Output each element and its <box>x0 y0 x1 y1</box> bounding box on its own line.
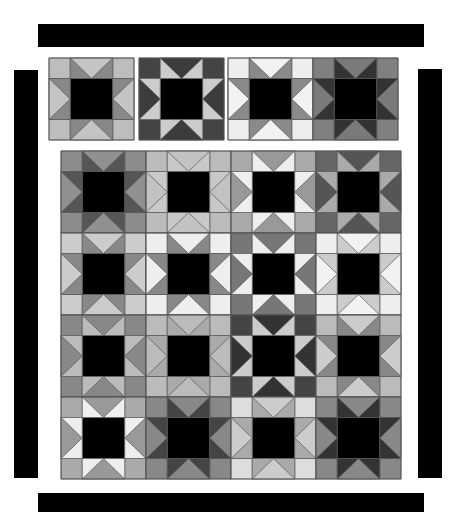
quilt-block-r1-c4 <box>316 151 401 233</box>
quilt-block-r4-c1 <box>61 397 146 479</box>
sample-block-4 <box>313 58 398 140</box>
quilt-block-r1-c2 <box>146 151 231 233</box>
quilt-block-r1-c3 <box>231 151 316 233</box>
quilt-diagram <box>0 0 459 512</box>
quilt-main-grid <box>61 151 401 479</box>
quilt-block-r4-c3 <box>231 397 316 479</box>
quilt-block-r4-c2 <box>146 397 231 479</box>
sample-block-row <box>49 58 398 140</box>
quilt-block-r3-c4 <box>316 315 401 397</box>
quilt-block-r4-c4 <box>316 397 401 479</box>
quilt-block-r2-c4 <box>316 233 401 315</box>
sample-block-3 <box>228 58 313 140</box>
sample-block-1 <box>49 58 134 140</box>
quilt-block-r2-c2 <box>146 233 231 315</box>
quilt-block-r2-c3 <box>231 233 316 315</box>
sample-block-2 <box>139 58 224 140</box>
quilt-block-r1-c1 <box>61 151 146 233</box>
quilt-block-r2-c1 <box>61 233 146 315</box>
quilt-block-r3-c1 <box>61 315 146 397</box>
quilt-block-r3-c3 <box>231 315 316 397</box>
quilt-block-r3-c2 <box>146 315 231 397</box>
